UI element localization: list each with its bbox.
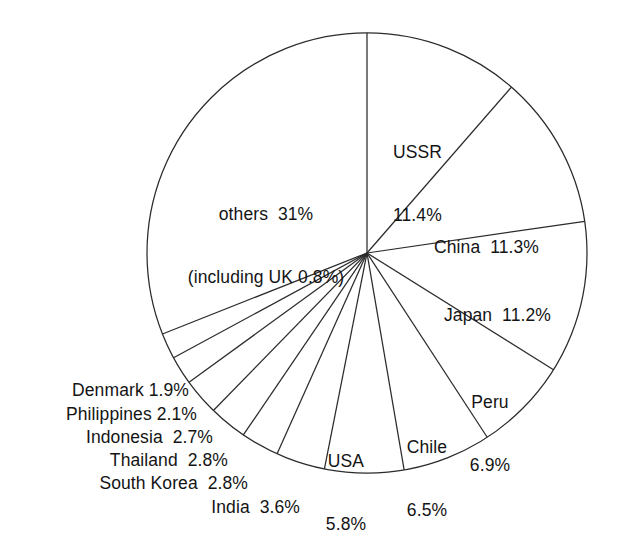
slice-label-usa: USA 5.8%	[317, 409, 375, 534]
slice-label-ussr-name: USSR	[393, 142, 442, 163]
slice-label-denmark-text: Denmark 1.9%	[8, 380, 189, 401]
slice-label-others-name: others 31%	[166, 204, 366, 225]
slice-label-peru-name: Peru	[457, 392, 523, 413]
slice-label-peru: Peru 6.9%	[457, 350, 523, 518]
slice-label-chile-name: Chile	[397, 437, 457, 458]
slice-label-chile: Chile 6.5%	[397, 395, 457, 534]
slice-label-usa-name: USA	[317, 451, 375, 472]
slice-label-japan-text: Japan 11.2%	[444, 305, 551, 326]
slice-label-usa-value: 5.8%	[317, 514, 375, 534]
slice-label-others-note: (including UK 0.8%)	[166, 267, 366, 288]
slice-label-peru-value: 6.9%	[457, 455, 523, 476]
slice-label-chile-value: 6.5%	[397, 500, 457, 521]
slice-label-denmark: Denmark 1.9%	[8, 338, 189, 443]
slice-label-china-text: China 11.3%	[434, 237, 539, 258]
slice-label-others: others 31% (including UK 0.8%)	[166, 162, 366, 330]
